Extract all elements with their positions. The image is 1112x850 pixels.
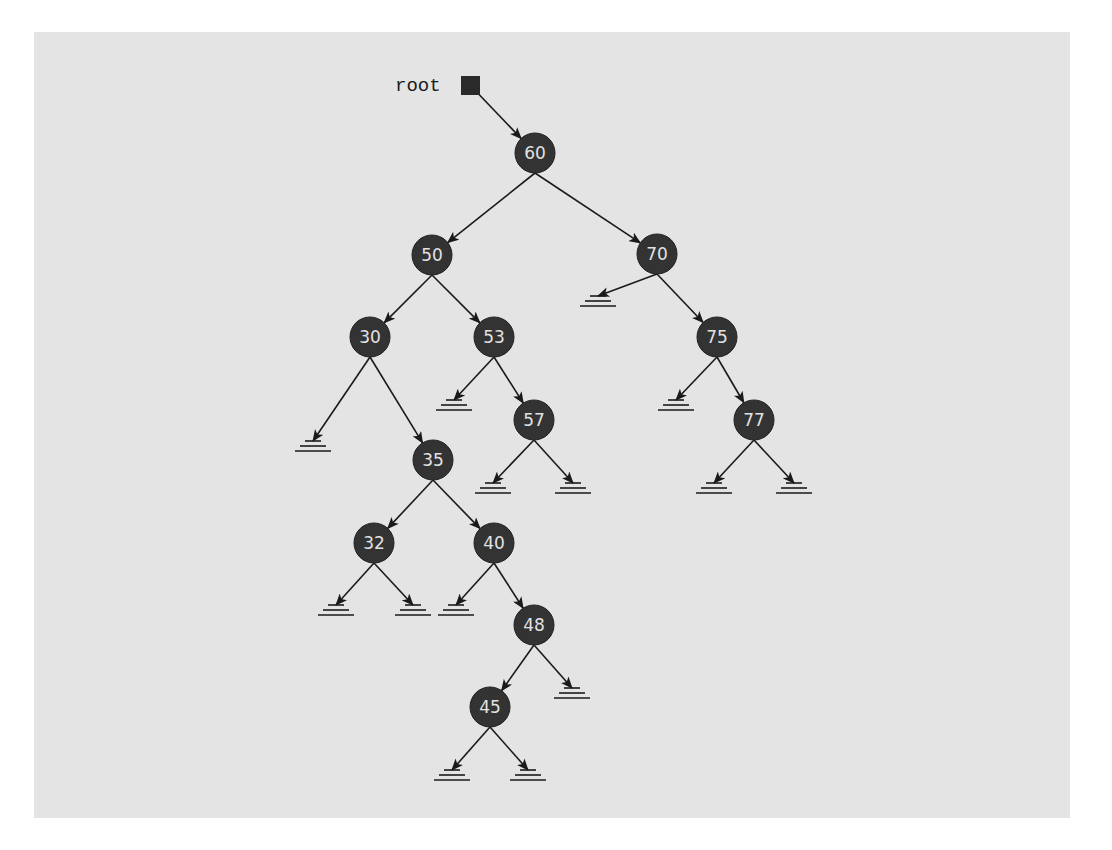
null-symbol-icon: [658, 400, 694, 410]
null-pointer-arrow: [456, 563, 494, 605]
root-pointer-box: [461, 76, 480, 95]
tree-node-60: 60: [515, 133, 555, 173]
edge-arrow: [448, 173, 535, 243]
edges: [313, 85, 794, 770]
node-label: 30: [359, 327, 381, 347]
null-pointer-arrow: [754, 440, 794, 483]
node-label: 40: [483, 533, 505, 553]
null-symbol-icon: [776, 483, 812, 493]
null-symbol-icon: [438, 605, 474, 615]
node-label: 45: [479, 697, 501, 717]
edge-arrow: [494, 357, 523, 403]
node-label: 60: [524, 143, 546, 163]
null-pointer-arrow: [714, 440, 754, 483]
tree-node-75: 75: [697, 317, 737, 357]
null-symbol-icon: [436, 400, 472, 410]
tree-node-35: 35: [413, 440, 453, 480]
tree-node-30: 30: [350, 317, 390, 357]
tree-node-57: 57: [514, 400, 554, 440]
null-pointer-arrow: [490, 727, 528, 770]
node-label: 53: [483, 327, 505, 347]
edge-arrow: [384, 275, 432, 323]
null-symbol-icon: [318, 605, 354, 615]
null-symbol-icon: [295, 441, 331, 451]
null-pointer-arrow: [374, 563, 413, 605]
edge-arrow: [433, 480, 480, 529]
tree-node-32: 32: [354, 523, 394, 563]
null-pointer-arrow: [676, 357, 717, 400]
edge-arrow: [535, 173, 640, 243]
tree-node-70: 70: [637, 234, 677, 274]
nodes: 60507030537535577732404845: [350, 133, 774, 727]
node-label: 32: [363, 533, 385, 553]
tree-node-77: 77: [734, 400, 774, 440]
null-pointer-arrow: [313, 357, 370, 441]
tree-node-40: 40: [474, 523, 514, 563]
null-symbol-icon: [580, 296, 616, 306]
null-pointer-arrow: [336, 563, 374, 605]
edge-arrow: [502, 645, 534, 691]
edge-arrow: [370, 357, 423, 443]
null-symbol-icon: [475, 483, 511, 493]
null-pointer-arrow: [598, 274, 657, 296]
tree-node-50: 50: [412, 235, 452, 275]
node-label: 50: [421, 245, 443, 265]
bst-diagram: 60507030537535577732404845 root: [0, 0, 1112, 850]
null-pointer-arrow: [452, 727, 490, 770]
null-symbol-icon: [510, 770, 546, 780]
node-label: 75: [706, 327, 728, 347]
null-pointer-arrow: [534, 440, 573, 483]
edge-arrow: [494, 563, 523, 608]
edge-arrow: [432, 275, 480, 323]
tree-node-48: 48: [514, 605, 554, 645]
null-pointer-arrow: [534, 645, 572, 688]
root-label: root: [395, 75, 441, 97]
null-symbol-icon: [555, 483, 591, 493]
tree-node-45: 45: [470, 687, 510, 727]
null-symbol-icon: [395, 605, 431, 615]
null-pointer-arrow: [493, 440, 534, 483]
edge-arrow: [388, 480, 433, 528]
node-label: 57: [523, 410, 545, 430]
null-symbol-icon: [434, 770, 470, 780]
null-symbol-icon: [554, 688, 590, 698]
tree-node-53: 53: [474, 317, 514, 357]
node-label: 35: [422, 450, 444, 470]
null-pointer-arrow: [454, 357, 494, 400]
edge-arrow: [657, 274, 703, 323]
node-label: 77: [743, 410, 765, 430]
node-label: 48: [523, 615, 545, 635]
node-label: 70: [646, 244, 668, 264]
root-pointer: root: [395, 75, 480, 97]
null-symbol-icon: [696, 483, 732, 493]
edge-arrow: [717, 357, 744, 403]
